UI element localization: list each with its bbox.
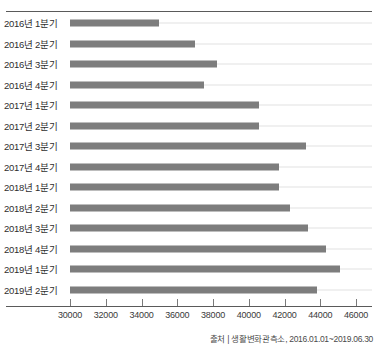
chart-row: 2016년 2분기 [0, 34, 383, 55]
x-axis-tick-label: 46000 [344, 310, 368, 320]
chart-row: 2019년 1분기 [0, 259, 383, 280]
x-axis-tick-label: 40000 [237, 310, 261, 320]
bar [70, 266, 340, 273]
chart-row: 2016년 4분기 [0, 75, 383, 96]
category-label: 2019년 1분기 [4, 262, 66, 276]
chart-row: 2018년 1분기 [0, 177, 383, 198]
bar [70, 61, 217, 68]
chart-row: 2017년 3분기 [0, 136, 383, 157]
chart-row: 2017년 2분기 [0, 116, 383, 137]
chart-row: 2017년 1분기 [0, 95, 383, 116]
x-axis-tick [142, 299, 143, 306]
x-axis-tick [249, 299, 250, 306]
bar [70, 40, 195, 47]
chart-row: 2018년 2분기 [0, 198, 383, 219]
category-label: 2018년 3분기 [4, 221, 66, 235]
category-label: 2016년 3분기 [4, 57, 66, 71]
bar [70, 102, 259, 109]
x-axis-tick [213, 299, 214, 306]
x-axis-tick [177, 299, 178, 306]
bar [70, 143, 306, 150]
top-border-rule [6, 11, 372, 12]
bar [70, 184, 279, 191]
source-caption: 출처 | 생활변화관측소, 2016.01.01~2019.06.30 [210, 332, 373, 344]
bar [70, 225, 308, 232]
category-label: 2018년 2분기 [4, 201, 66, 215]
x-axis-tick-label: 30000 [58, 310, 82, 320]
x-axis-tick [70, 299, 71, 306]
category-label: 2016년 1분기 [4, 16, 66, 30]
chart-row: 2016년 1분기 [0, 13, 383, 34]
x-axis-tick [285, 299, 286, 306]
category-label: 2017년 4분기 [4, 160, 66, 174]
bar [70, 122, 259, 129]
category-label: 2016년 4분기 [4, 78, 66, 92]
chart-row: 2018년 4분기 [0, 239, 383, 260]
x-axis-tick-label: 32000 [94, 310, 118, 320]
category-label: 2019년 2분기 [4, 283, 66, 297]
x-axis-tick [356, 299, 357, 306]
x-axis-tick [106, 299, 107, 306]
chart-row: 2018년 3분기 [0, 218, 383, 239]
bar [70, 81, 204, 88]
category-label: 2017년 1분기 [4, 98, 66, 112]
category-label: 2018년 4분기 [4, 242, 66, 256]
category-label: 2016년 2분기 [4, 37, 66, 51]
plot-area: 2016년 1분기2016년 2분기2016년 3분기2016년 4분기2017… [0, 13, 383, 305]
x-axis-line [6, 306, 372, 307]
category-label: 2017년 2분기 [4, 119, 66, 133]
chart-row: 2016년 3분기 [0, 54, 383, 75]
chart-row: 2019년 2분기 [0, 280, 383, 301]
bar [70, 204, 290, 211]
bar [70, 163, 279, 170]
x-axis-tick-label: 34000 [129, 310, 153, 320]
chart-row: 2017년 4분기 [0, 157, 383, 178]
x-axis-tick [320, 299, 321, 306]
x-axis-tick-label: 38000 [201, 310, 225, 320]
bar [70, 245, 326, 252]
bar-chart: 2016년 1분기2016년 2분기2016년 3분기2016년 4분기2017… [0, 0, 383, 354]
x-axis-tick-label: 36000 [165, 310, 189, 320]
x-axis-tick-label: 44000 [308, 310, 332, 320]
bar [70, 20, 159, 27]
category-label: 2017년 3분기 [4, 139, 66, 153]
x-axis-tick-label: 42000 [272, 310, 296, 320]
category-label: 2018년 1분기 [4, 180, 66, 194]
bar [70, 286, 317, 293]
